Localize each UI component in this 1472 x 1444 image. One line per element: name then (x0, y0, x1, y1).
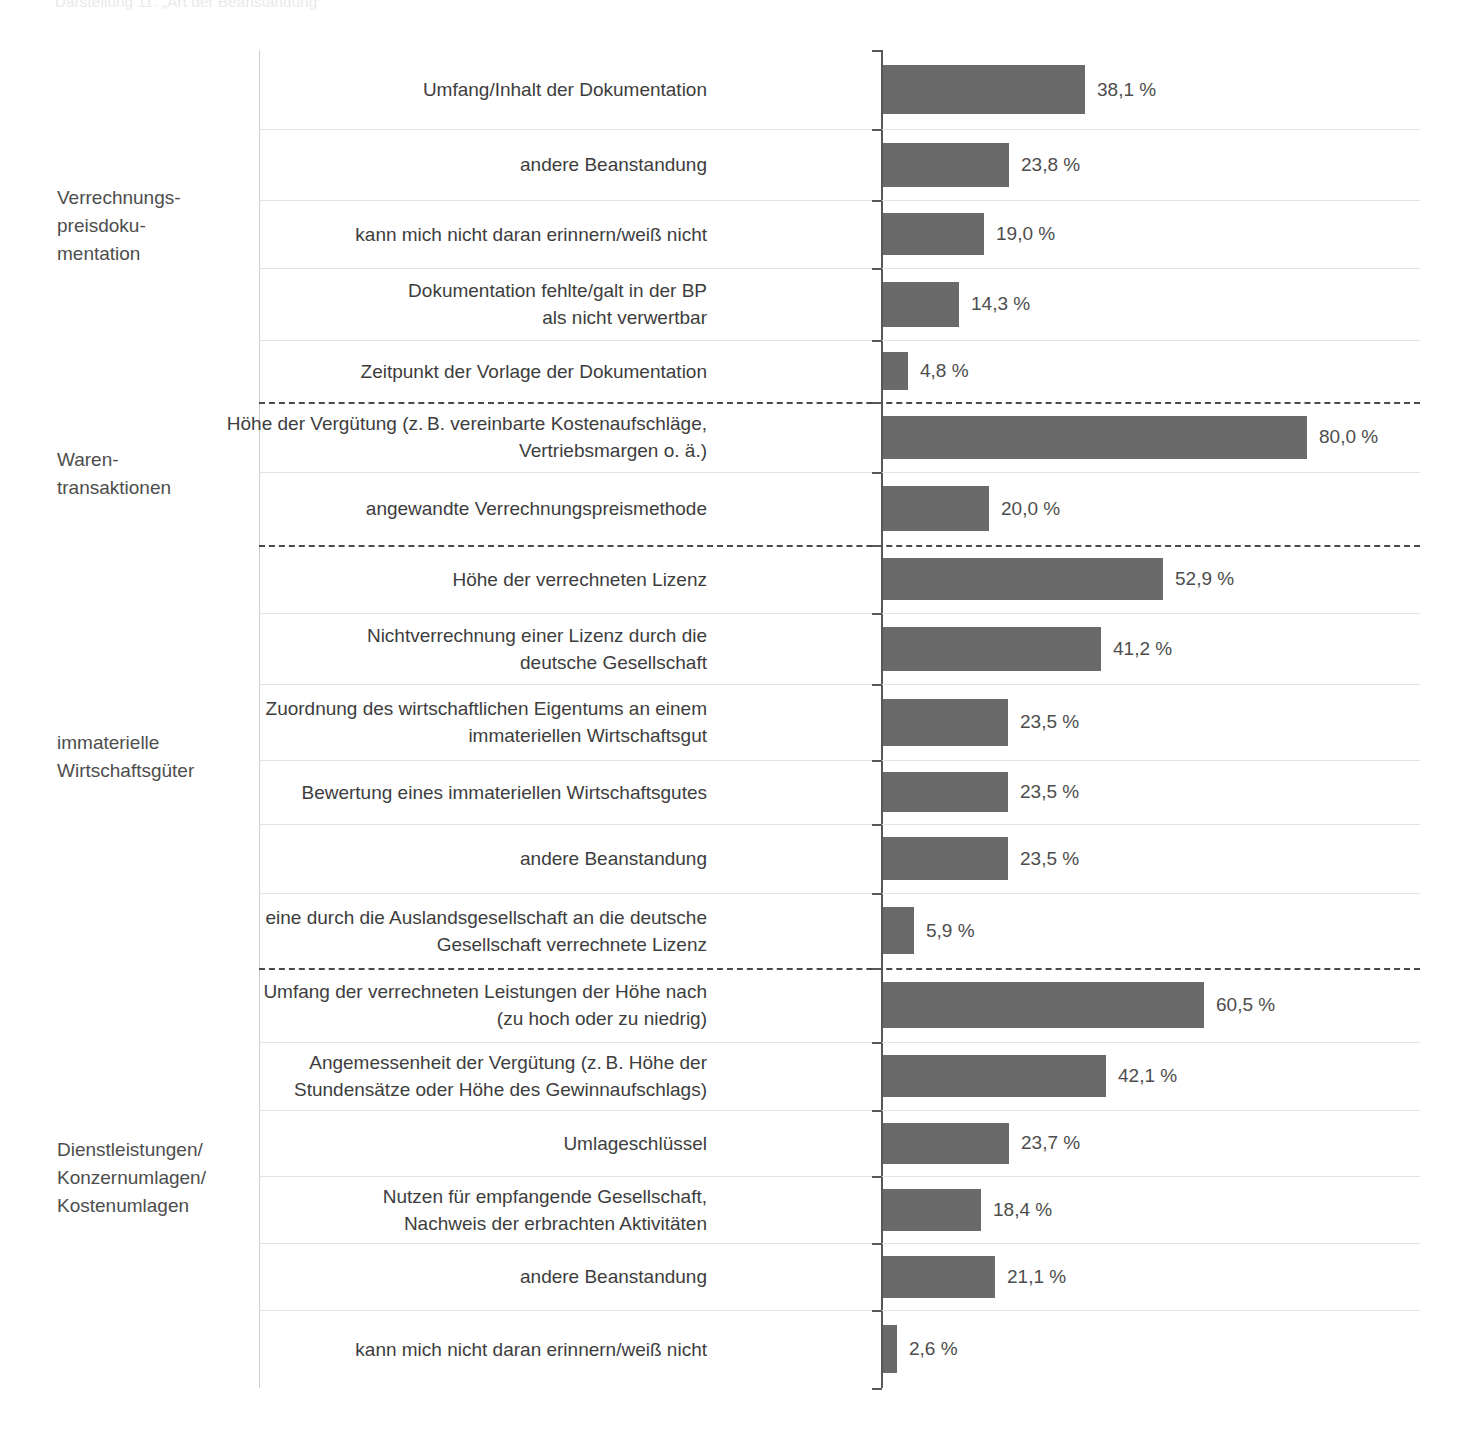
row-divider (259, 200, 1420, 201)
bar-value-label: 4,8 % (920, 360, 969, 382)
axis-tick (872, 1110, 882, 1112)
bar (883, 982, 1204, 1028)
bar-category-label: Zeitpunkt der Vorlage der Dokumentation (7, 358, 707, 385)
chart-row: andere Beanstandung23,8 % (259, 129, 1420, 200)
chart-row: eine durch die Auslandsgesellschaft an d… (259, 893, 1420, 968)
bar-value-label: 18,4 % (993, 1199, 1052, 1221)
axis-tick (872, 402, 882, 404)
axis-tick (872, 684, 882, 686)
bar-category-label: eine durch die Auslandsgesellschaft an d… (7, 904, 707, 958)
chart-row: angewandte Verrechnungspreismethode20,0 … (259, 472, 1420, 545)
axis-tick (872, 200, 882, 202)
bar-value-label: 80,0 % (1319, 426, 1378, 448)
row-divider (259, 1310, 1420, 1311)
bar-value-label: 23,7 % (1021, 1132, 1080, 1154)
chart-row: Bewertung eines immateriellen Wirtschaft… (259, 760, 1420, 824)
axis-tick (872, 1388, 882, 1390)
group-label: Verrechnungs-preisdoku-mentation (57, 184, 257, 268)
row-divider (259, 472, 1420, 473)
bar-value-label: 41,2 % (1113, 638, 1172, 660)
bar-category-label: Höhe der verrechneten Lizenz (7, 566, 707, 593)
axis-tick (872, 1176, 882, 1178)
bar-value-label: 23,5 % (1020, 711, 1079, 733)
bar (883, 1189, 981, 1231)
axis-tick (872, 129, 882, 131)
axis-tick (872, 613, 882, 615)
chart-row: Zeitpunkt der Vorlage der Dokumentation4… (259, 340, 1420, 402)
axis-tick (872, 760, 882, 762)
chart-row: Höhe der verrechneten Lizenz52,9 % (259, 545, 1420, 613)
bar-value-label: 42,1 % (1118, 1065, 1177, 1087)
bar (883, 65, 1085, 114)
row-divider (259, 129, 1420, 130)
axis-tick (872, 1310, 882, 1312)
axis-tick (872, 545, 882, 547)
bar (883, 213, 984, 255)
group-label: Waren-transaktionen (57, 446, 257, 502)
bar-category-label: andere Beanstandung (7, 1263, 707, 1290)
chart-row: Umfang/Inhalt der Dokumentation38,1 % (259, 50, 1420, 129)
bar (883, 627, 1101, 671)
bar (883, 352, 908, 390)
bar (883, 1256, 995, 1298)
bar-value-label: 2,6 % (909, 1338, 958, 1360)
bar-value-label: 60,5 % (1216, 994, 1275, 1016)
bar-value-label: 19,0 % (996, 223, 1055, 245)
chart-row: Umfang der verrechneten Leistungen der H… (259, 968, 1420, 1042)
axis-tick (872, 968, 882, 970)
group-divider (259, 402, 1420, 404)
row-divider (259, 1243, 1420, 1244)
row-divider (259, 684, 1420, 685)
group-label: immaterielleWirtschaftsgüter (57, 729, 257, 785)
chart-row: Angemessenheit der Vergütung (z. B. Höhe… (259, 1042, 1420, 1110)
chart-root: Darstellung 11: „Art der Beanstandung“ U… (0, 0, 1472, 1444)
axis-tick (872, 1243, 882, 1245)
bar-value-label: 14,3 % (971, 293, 1030, 315)
bar-category-label: andere Beanstandung (7, 845, 707, 872)
bar (883, 486, 989, 531)
bar-category-label: andere Beanstandung (7, 151, 707, 178)
chart-row: kann mich nicht daran erinnern/weiß nich… (259, 200, 1420, 268)
bar-category-label: Umfang der verrechneten Leistungen der H… (7, 978, 707, 1032)
bar-category-label: kann mich nicht daran erinnern/weiß nich… (7, 1336, 707, 1363)
axis-tick (872, 893, 882, 895)
bar (883, 1325, 897, 1373)
bar (883, 699, 1008, 746)
chart-caption: Darstellung 11: „Art der Beanstandung“ (55, 0, 815, 11)
row-divider (259, 1176, 1420, 1177)
bar (883, 558, 1163, 600)
chart-row: Umlageschlüssel23,7 % (259, 1110, 1420, 1176)
bar-value-label: 20,0 % (1001, 498, 1060, 520)
bar (883, 1123, 1009, 1164)
chart-row: Zuordnung des wirtschaftlichen Eigentums… (259, 684, 1420, 760)
bar-category-label: Dokumentation fehlte/galt in der BPals n… (7, 277, 707, 331)
bar (883, 907, 914, 954)
axis-tick (872, 1042, 882, 1044)
chart-row: andere Beanstandung23,5 % (259, 824, 1420, 893)
row-divider (259, 1042, 1420, 1043)
axis-tick (872, 50, 882, 52)
row-divider (259, 268, 1420, 269)
bar (883, 837, 1008, 880)
bar-category-label: Umfang/Inhalt der Dokumentation (7, 76, 707, 103)
row-divider (259, 760, 1420, 761)
chart-row: Höhe der Vergütung (z. B. vereinbarte Ko… (259, 402, 1420, 472)
group-label: Dienstleistungen/Konzernumlagen/Kostenum… (57, 1136, 257, 1220)
bar (883, 1055, 1106, 1097)
row-divider (259, 613, 1420, 614)
row-divider (259, 340, 1420, 341)
row-divider (259, 824, 1420, 825)
axis-tick (872, 268, 882, 270)
bar (883, 772, 1008, 812)
bar (883, 282, 959, 327)
bar-value-label: 23,5 % (1020, 781, 1079, 803)
chart-row: Nichtverrechnung einer Lizenz durch died… (259, 613, 1420, 684)
group-divider (259, 545, 1420, 547)
axis-tick (872, 340, 882, 342)
bar-value-label: 21,1 % (1007, 1266, 1066, 1288)
bar-category-label: Nichtverrechnung einer Lizenz durch died… (7, 622, 707, 676)
chart-row: kann mich nicht daran erinnern/weiß nich… (259, 1310, 1420, 1388)
bar-value-label: 38,1 % (1097, 79, 1156, 101)
bar-value-label: 52,9 % (1175, 568, 1234, 590)
bar (883, 416, 1307, 459)
